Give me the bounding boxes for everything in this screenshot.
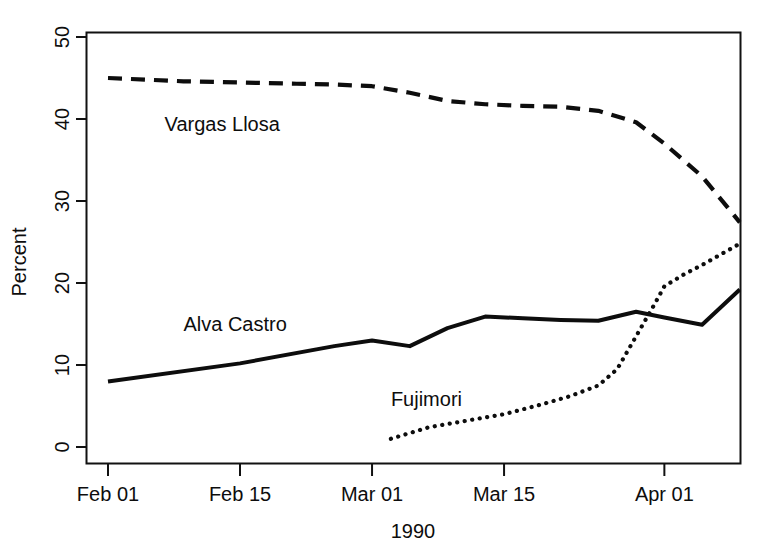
series-label: Fujimori xyxy=(391,388,462,410)
y-axis-title: Percent xyxy=(8,227,30,296)
y-tick-label: 0 xyxy=(51,441,73,452)
x-tick-label: Mar 15 xyxy=(473,483,535,505)
y-tick-label: 50 xyxy=(51,26,73,48)
y-tick-label: 40 xyxy=(51,108,73,130)
x-axis-title: 1990 xyxy=(391,520,436,542)
series-label: Alva Castro xyxy=(183,313,286,335)
x-tick-label: Mar 01 xyxy=(341,483,403,505)
line-chart-canvas: 01020304050 Feb 01Feb 15Mar 01Mar 15Apr … xyxy=(0,0,775,555)
x-tick-label: Feb 01 xyxy=(77,483,139,505)
chart-figure: 01020304050 Feb 01Feb 15Mar 01Mar 15Apr … xyxy=(0,0,775,555)
series-label: Vargas Llosa xyxy=(165,113,281,135)
y-tick-label: 10 xyxy=(51,354,73,376)
figure-background xyxy=(0,0,775,555)
x-tick-label: Feb 15 xyxy=(209,483,271,505)
y-tick-label: 30 xyxy=(51,190,73,212)
y-tick-label: 20 xyxy=(51,272,73,294)
x-tick-label: Apr 01 xyxy=(635,483,694,505)
